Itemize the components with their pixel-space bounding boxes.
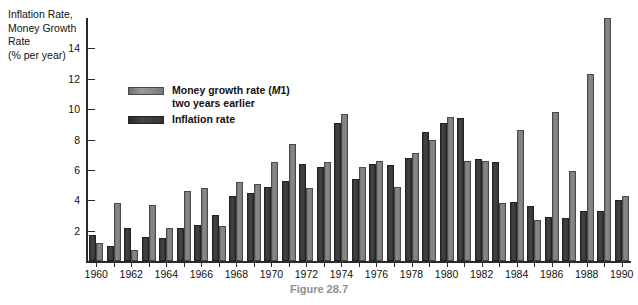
bar-money-growth-1976 (376, 161, 383, 261)
bar-money-growth-1973 (324, 162, 331, 261)
bar-money-growth-1972 (306, 188, 313, 261)
x-axis-tick (149, 263, 150, 267)
bar-money-growth-1967 (219, 226, 226, 261)
bar-money-growth-1985 (534, 220, 541, 261)
x-axis-tick (604, 263, 605, 267)
bar-inflation-1974 (334, 123, 341, 261)
bar-money-growth-1979 (429, 140, 436, 262)
x-axis-tick (587, 263, 588, 267)
bar-money-growth-1983 (499, 203, 506, 261)
x-axis-tick-label: 1960 (85, 268, 108, 280)
x-axis-tick (219, 263, 220, 267)
bar-money-growth-1971 (289, 144, 296, 261)
figure-28-7: Inflation Rate, Money Growth Rate (% per… (0, 0, 638, 305)
bar-inflation-1977 (387, 165, 394, 261)
legend-label-inflation: Inflation rate (172, 113, 235, 126)
x-axis-tick-label: 1988 (575, 268, 598, 280)
bar-inflation-1980 (440, 123, 447, 261)
bar-money-growth-1974 (341, 114, 348, 261)
y-axis-tick-label: 10 (56, 103, 80, 115)
bar-money-growth-1962 (131, 250, 138, 261)
bar-money-growth-1980 (447, 117, 454, 261)
bar-money-growth-1981 (464, 161, 471, 261)
figure-caption: Figure 28.7 (0, 283, 638, 295)
legend-label-money-growth-line-2: two years earlier (172, 97, 255, 109)
bar-inflation-1985 (527, 206, 534, 261)
bar-inflation-1966 (194, 225, 201, 261)
x-axis-tick (429, 263, 430, 267)
x-axis-tick (96, 263, 97, 267)
bar-inflation-1965 (177, 228, 184, 261)
bar-group (88, 18, 631, 261)
x-axis-tick (131, 263, 132, 267)
x-axis-tick-label: 1982 (470, 268, 493, 280)
x-axis-tick-label: 1962 (120, 268, 143, 280)
bar-money-growth-1970 (271, 162, 278, 261)
bar-inflation-1990 (615, 200, 622, 261)
bar-inflation-1970 (264, 187, 271, 261)
bar-money-growth-1969 (254, 184, 261, 261)
bar-inflation-1982 (475, 159, 482, 261)
bar-inflation-1983 (492, 162, 499, 261)
legend-swatch-inflation-icon (128, 116, 164, 124)
y-axis-tick-label: 4 (56, 194, 80, 206)
bar-inflation-1972 (299, 164, 306, 261)
x-axis-tick (482, 263, 483, 267)
bar-money-growth-1984 (517, 130, 524, 261)
x-axis-tick-label: 1984 (505, 268, 528, 280)
x-axis-tick (552, 263, 553, 267)
bar-inflation-1973 (317, 167, 324, 261)
x-axis-tick-label: 1964 (155, 268, 178, 280)
y-axis-tick-labels: 2468101214 (54, 18, 80, 263)
bar-inflation-1960 (89, 235, 96, 261)
x-axis-tick (184, 263, 185, 267)
bar-money-growth-1988 (587, 74, 594, 261)
bar-inflation-1976 (369, 164, 376, 261)
bar-inflation-1968 (229, 196, 236, 261)
y-axis-tick-label: 14 (56, 42, 80, 54)
bar-inflation-1979 (422, 132, 429, 261)
bar-money-growth-1960 (96, 243, 103, 261)
x-axis-tick (306, 263, 307, 267)
bar-inflation-1969 (247, 193, 254, 261)
x-axis-tick-label: 1968 (225, 268, 248, 280)
x-axis-tick-label: 1966 (190, 268, 213, 280)
x-axis-tick (271, 263, 272, 267)
bar-money-growth-1978 (412, 153, 419, 261)
x-axis-tick (324, 263, 325, 267)
bar-inflation-1981 (457, 118, 464, 261)
x-axis-tick (236, 263, 237, 267)
bar-inflation-1975 (352, 179, 359, 261)
bar-money-growth-1966 (201, 188, 208, 261)
x-axis-tick (341, 263, 342, 267)
legend-label-money-growth-line-1: Money growth rate (M1) (172, 84, 290, 96)
bar-inflation-1986 (545, 217, 552, 261)
x-axis-tick (114, 263, 115, 267)
x-axis-tick (359, 263, 360, 267)
x-axis-tick-label: 1990 (610, 268, 633, 280)
x-axis-tick (447, 263, 448, 267)
x-axis-tick (534, 263, 535, 267)
legend-label-money-growth: Money growth rate (M1) two years earlier (172, 84, 290, 110)
bar-money-growth-1977 (394, 187, 401, 261)
bar-money-growth-1982 (482, 161, 489, 261)
x-axis-tick (376, 263, 377, 267)
x-axis-tick (464, 263, 465, 267)
bar-inflation-1963 (142, 237, 149, 261)
bar-inflation-1967 (212, 215, 219, 261)
bar-inflation-1984 (510, 202, 517, 261)
x-axis-tick (254, 263, 255, 267)
x-axis-tick-label: 1986 (540, 268, 563, 280)
x-axis-tick (201, 263, 202, 267)
x-axis-tick-label: 1972 (295, 268, 318, 280)
y-axis-tick-label: 8 (56, 134, 80, 146)
bar-money-growth-1968 (236, 182, 243, 261)
bar-inflation-1961 (107, 246, 114, 261)
bar-inflation-1988 (580, 211, 587, 261)
chart-legend: Money growth rate (M1) two years earlier… (128, 84, 290, 129)
x-axis-tick-label: 1976 (365, 268, 388, 280)
x-axis-tick (412, 263, 413, 267)
bar-money-growth-1989 (604, 18, 611, 261)
plot-area: 2468101214 19601962196419661968197019721… (86, 18, 631, 263)
x-axis-tick (569, 263, 570, 267)
